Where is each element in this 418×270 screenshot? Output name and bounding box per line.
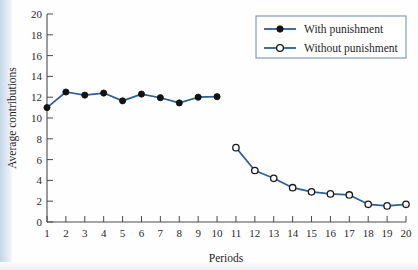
x-tick-label: 4 xyxy=(101,227,107,239)
x-tick-label: 16 xyxy=(325,227,337,239)
data-point xyxy=(384,203,390,209)
x-tick-label: 15 xyxy=(306,227,318,239)
data-point xyxy=(346,192,352,198)
x-tick-label: 10 xyxy=(212,227,224,239)
x-tick-label: 9 xyxy=(195,227,201,239)
y-tick-label: 14 xyxy=(31,70,43,82)
data-point xyxy=(63,89,69,95)
data-point xyxy=(252,167,258,173)
x-tick-label: 17 xyxy=(344,227,356,239)
x-tick-label: 5 xyxy=(120,227,126,239)
data-point xyxy=(157,95,163,101)
data-point xyxy=(271,175,277,181)
data-point xyxy=(195,94,201,100)
x-tick-label: 6 xyxy=(139,227,145,239)
x-tick-label: 11 xyxy=(231,227,242,239)
chart-legend: With punishmentWithout punishment xyxy=(256,16,406,58)
y-tick-label: 20 xyxy=(31,8,43,20)
x-tick-label: 1 xyxy=(44,227,50,239)
y-tick-label: 8 xyxy=(37,133,43,145)
y-axis-ticks: 02468101214161820 xyxy=(31,8,53,228)
line-chart: 02468101214161820 1234567891011121314151… xyxy=(0,0,418,270)
y-tick-label: 10 xyxy=(31,112,43,124)
data-point xyxy=(44,105,50,111)
data-point xyxy=(403,201,409,207)
data-point xyxy=(101,90,107,96)
x-tick-label: 13 xyxy=(268,227,280,239)
legend-marker-1 xyxy=(277,45,284,52)
data-point xyxy=(214,94,220,100)
data-point xyxy=(233,144,239,150)
y-tick-label: 6 xyxy=(37,154,43,166)
series-line-1 xyxy=(236,148,406,206)
legend-marker-0 xyxy=(277,26,283,32)
data-point xyxy=(119,98,125,104)
x-tick-label: 14 xyxy=(287,227,299,239)
y-tick-label: 18 xyxy=(31,29,43,41)
data-point xyxy=(365,201,371,207)
x-tick-label: 12 xyxy=(249,227,260,239)
x-tick-label: 2 xyxy=(63,227,69,239)
y-tick-label: 12 xyxy=(31,91,42,103)
x-tick-label: 8 xyxy=(177,227,183,239)
y-tick-label: 4 xyxy=(37,174,43,186)
data-point xyxy=(308,189,314,195)
y-tick-label: 0 xyxy=(37,216,43,228)
data-point xyxy=(138,91,144,97)
x-axis-ticks: 1234567891011121314151617181920 xyxy=(44,216,412,239)
data-point xyxy=(289,184,295,190)
legend-label: Without punishment xyxy=(304,42,399,55)
data-point xyxy=(176,100,182,106)
y-axis-title: Average contributions xyxy=(6,67,19,169)
x-tick-label: 20 xyxy=(401,227,413,239)
x-tick-label: 18 xyxy=(363,227,375,239)
y-tick-label: 16 xyxy=(31,50,43,62)
series-layer xyxy=(44,89,409,209)
y-tick-label: 2 xyxy=(37,195,43,207)
chart-page: 02468101214161820 1234567891011121314151… xyxy=(0,0,418,270)
x-tick-label: 7 xyxy=(158,227,164,239)
data-point xyxy=(327,191,333,197)
series-line-0 xyxy=(47,92,217,108)
legend-label: With punishment xyxy=(304,23,384,36)
x-tick-label: 19 xyxy=(382,227,394,239)
x-axis-title: Periods xyxy=(209,252,244,264)
x-tick-label: 3 xyxy=(82,227,88,239)
data-point xyxy=(82,92,88,98)
